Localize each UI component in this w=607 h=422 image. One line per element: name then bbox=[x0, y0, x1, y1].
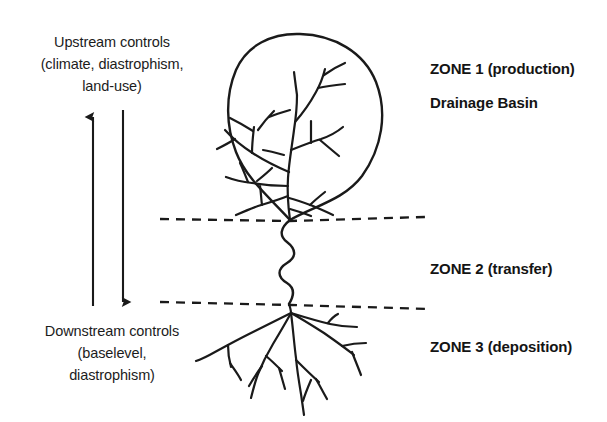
zone-2-3-divider bbox=[160, 302, 430, 309]
diagram-artwork bbox=[0, 0, 607, 422]
fluvial-system-diagram: Upstream controls (climate, diastrophism… bbox=[0, 0, 607, 422]
dendritic-drainage-network bbox=[217, 63, 345, 220]
meandering-transfer-channel bbox=[280, 220, 295, 304]
drainage-basin-outline bbox=[228, 34, 382, 220]
delta-distributary-network bbox=[196, 304, 366, 415]
